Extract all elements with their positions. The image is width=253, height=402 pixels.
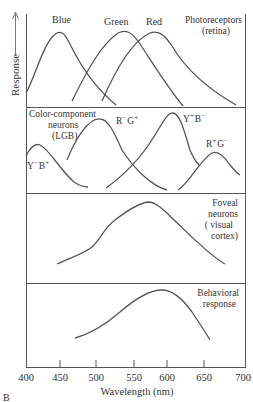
label-r-minus-g-plus: R−G+ bbox=[116, 114, 138, 126]
curve-blue bbox=[26, 32, 116, 105]
svg-text:Green: Green bbox=[104, 16, 128, 27]
svg-text:400: 400 bbox=[18, 372, 34, 383]
svg-text:neurons: neurons bbox=[48, 120, 78, 130]
svg-text:Foveal: Foveal bbox=[212, 198, 238, 208]
figure: Response Blue Green Red Photoreceptors (… bbox=[0, 0, 253, 402]
panel-foveal: Foveal neurons ( visual cortex) bbox=[57, 198, 238, 264]
svg-text:Response: Response bbox=[9, 54, 21, 96]
svg-text:550: 550 bbox=[126, 372, 142, 383]
curve-red bbox=[102, 32, 236, 105]
x-axis-label: Wavelength (nm) bbox=[101, 386, 174, 398]
y-axis-label: Response bbox=[9, 12, 21, 96]
svg-text:700: 700 bbox=[235, 372, 251, 383]
panel-color-component: Color-component neurons (LGB) Y−B+ R−G+ … bbox=[26, 109, 240, 190]
curve-r-plus-g-minus bbox=[178, 152, 240, 190]
label-y-minus-b-plus: Y−B+ bbox=[27, 159, 49, 171]
svg-text:(LGB): (LGB) bbox=[52, 131, 77, 142]
label-r-plus-g-minus: R+G− bbox=[206, 137, 228, 149]
svg-text:450: 450 bbox=[52, 372, 68, 383]
svg-text:600: 600 bbox=[159, 372, 175, 383]
svg-text:response: response bbox=[203, 299, 236, 309]
label-y-plus-b-minus: Y+B− bbox=[183, 112, 205, 124]
panel-behavioral: Behavioral response bbox=[75, 288, 239, 340]
svg-text:Blue: Blue bbox=[52, 14, 71, 25]
figure-label: B bbox=[3, 392, 10, 402]
svg-text:650: 650 bbox=[196, 372, 212, 383]
svg-text:(retina): (retina) bbox=[202, 26, 230, 37]
svg-text:Red: Red bbox=[146, 16, 162, 27]
svg-text:Behavioral: Behavioral bbox=[197, 288, 239, 298]
svg-text:500: 500 bbox=[88, 372, 104, 383]
curve-green bbox=[72, 31, 183, 106]
svg-text:Photoreceptors: Photoreceptors bbox=[185, 15, 242, 25]
svg-text:Color-component: Color-component bbox=[29, 109, 96, 119]
svg-text:cortex): cortex) bbox=[211, 231, 238, 242]
svg-text:( visual: ( visual bbox=[205, 220, 234, 231]
svg-text:neurons: neurons bbox=[208, 209, 238, 219]
x-tick-labels: 400 450 500 550 600 650 700 bbox=[18, 372, 251, 383]
curve-behavioral bbox=[75, 290, 210, 340]
panel-photoreceptors: Blue Green Red Photoreceptors (retina) bbox=[26, 14, 242, 106]
plot-frame bbox=[26, 14, 246, 368]
curve-foveal bbox=[57, 202, 225, 264]
